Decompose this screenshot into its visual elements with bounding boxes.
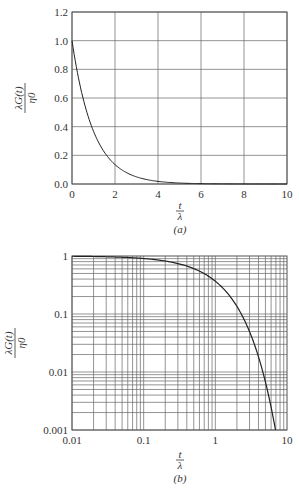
y-tick-label: 0.4 [54,121,68,133]
y-tick-label: 1.2 [54,6,68,18]
y-tick-label: 0.2 [54,149,68,161]
chart-a-curve [72,41,287,184]
chart-b-curve [72,256,276,430]
x-tick-label: 10 [282,188,294,200]
chart-a-grid [72,12,287,184]
x-tick-label: 0 [69,188,75,200]
chart-b-ylabel-den: η0 [15,337,27,348]
figure: 0.00.20.40.60.81.01.2 0246810 λG(t) η0 t… [0,0,299,496]
chart-b-ylabel: λG(t) η0 [2,328,27,358]
chart-a-xlabel-den: λ [177,210,183,222]
chart-a-ylabel: λG(t) η0 [12,83,37,113]
chart-a: 0.00.20.40.60.81.01.2 0246810 λG(t) η0 t… [12,6,293,236]
y-tick-label: 1.0 [54,35,68,47]
y-tick-label: 1 [63,250,69,262]
y-tick-label: 0.8 [54,63,68,75]
chart-b-xlabel-den: λ [177,459,183,471]
x-tick-label: 0.1 [137,434,151,446]
chart-a-ylabel-num: λG(t) [12,86,25,110]
chart-a-xlabel: t λ [176,199,184,222]
chart-a-yticks: 0.00.20.40.60.81.01.2 [54,6,68,190]
chart-b-grid [72,256,287,430]
x-tick-label: 1 [213,434,219,446]
x-tick-label: 6 [198,188,204,200]
y-tick-label: 0.01 [49,366,68,378]
x-tick-label: 8 [241,188,247,200]
chart-a-caption: (a) [174,223,187,236]
chart-b-xlabel: t λ [176,448,184,471]
chart-b-caption: (b) [174,472,187,485]
chart-b-ylabel-num: λG(t) [2,331,15,355]
chart-b-yticks: 0.0010.010.11 [43,250,68,436]
x-tick-label: 4 [155,188,161,200]
chart-b: 0.0010.010.11 0.010.1110 λG(t) η0 t λ (b… [2,250,293,485]
y-tick-label: 0.6 [54,92,68,104]
y-tick-label: 0.0 [54,178,68,190]
x-tick-label: 10 [282,434,294,446]
x-tick-label: 2 [112,188,118,200]
y-tick-label: 0.1 [54,308,68,320]
chart-b-frame [72,256,287,430]
chart-a-ylabel-den: η0 [25,92,37,103]
x-tick-label: 0.01 [62,434,81,446]
chart-b-xticks: 0.010.1110 [62,434,293,446]
